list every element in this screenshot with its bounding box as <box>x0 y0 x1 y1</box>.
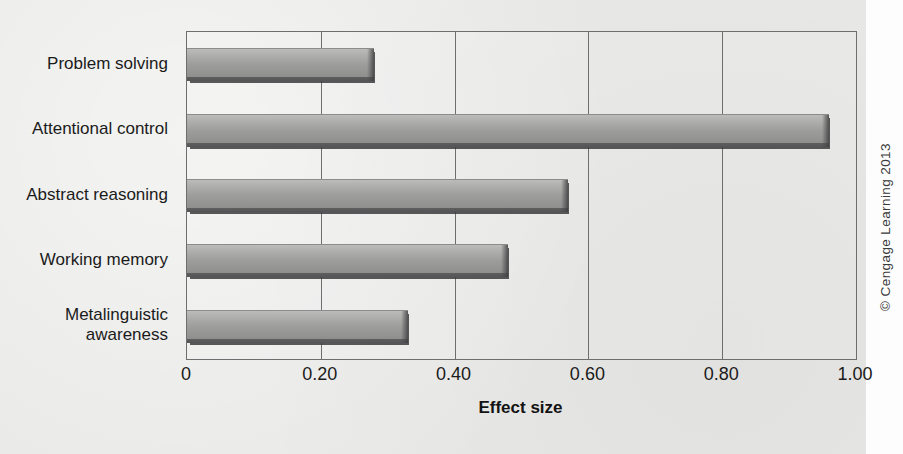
x-tick-0.40: 0.40 <box>436 364 471 385</box>
x-axis-title: Effect size <box>186 398 855 418</box>
x-tick-0.60: 0.60 <box>570 364 605 385</box>
x-tick-0.20: 0.20 <box>302 364 337 385</box>
copyright-text: © Cengage Learning 2013 <box>877 143 892 311</box>
category-label: Attentional control <box>32 119 168 139</box>
x-tick-0.80: 0.80 <box>704 364 739 385</box>
copyright-notice: © Cengage Learning 2013 <box>866 0 903 454</box>
bar-row <box>187 310 856 343</box>
category-label: Metalinguistic awareness <box>65 305 168 345</box>
bar-row <box>187 244 856 277</box>
bar-row <box>187 114 856 147</box>
x-tick-0: 0 <box>181 364 191 385</box>
bar-attentional-control <box>187 114 829 147</box>
bar-row <box>187 179 856 212</box>
category-label: Working memory <box>40 250 168 270</box>
bar-series <box>187 32 856 359</box>
category-label: Problem solving <box>47 54 168 74</box>
x-axis-tick-labels: 00.200.400.600.801.00 <box>186 364 855 390</box>
category-label: Abstract reasoning <box>26 185 168 205</box>
bar-problem-solving <box>187 48 374 81</box>
bar-row <box>187 48 856 81</box>
bar-abstract-reasoning <box>187 179 568 212</box>
figure-bilingual-effect-size-chart: © Cengage Learning 2013 Problem solvingA… <box>0 0 903 454</box>
bar-working-memory <box>187 244 508 277</box>
category-axis-labels: Problem solvingAttentional controlAbstra… <box>0 31 178 358</box>
bar-metalinguistic-awareness <box>187 310 408 343</box>
plot-area <box>186 31 857 360</box>
